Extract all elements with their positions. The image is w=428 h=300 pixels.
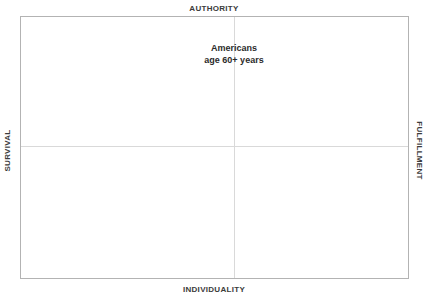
axis-pole-label-left: SURVIVAL <box>0 128 14 172</box>
annotation-line-2: age 60+ years <box>174 54 294 66</box>
axis-pole-label-bottom: INDIVIDUALITY <box>0 285 428 294</box>
cultural-map-chart: AUTHORITY INDIVIDUALITY SURVIVAL FULFILL… <box>0 0 428 300</box>
axis-pole-label-top: AUTHORITY <box>0 4 428 13</box>
axis-pole-label-right: FULFILLMENT <box>412 120 426 180</box>
annotation-line-1: Americans <box>174 42 294 54</box>
annotation-americans-age-60-plus: Americans age 60+ years <box>174 42 294 66</box>
axis-pole-label-right-text: FULFILLMENT <box>415 121 424 179</box>
axis-pole-label-left-text: SURVIVAL <box>3 129 12 171</box>
axis-line-horizontal <box>21 146 408 147</box>
